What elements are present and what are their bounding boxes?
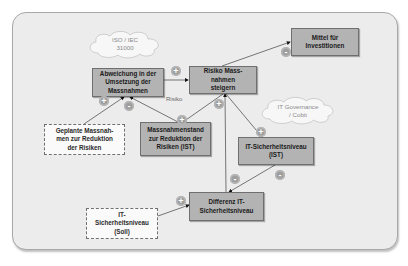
edge-label-risiko: Risiko: [166, 96, 182, 102]
edge-differenz-risiko: [225, 94, 226, 192]
cloud-governance-text: IT Governance / Cobit: [278, 103, 319, 119]
node-differenz-label: Differenz IT-Sicherheitsniveau: [196, 198, 257, 215]
minus-sign-icon: -: [124, 101, 134, 111]
cloud-governance-line2: / Cobit: [289, 111, 307, 118]
minus-sign-icon: -: [230, 174, 240, 184]
node-mittel-label: Mittel für Investitionen: [302, 34, 348, 51]
node-it-sicherheitsniveau-soll[interactable]: IT-Sicherheitsniveau (Soll): [86, 208, 158, 239]
edge-risiko-mittel: [222, 42, 290, 66]
node-geplante-massnahmen[interactable]: Geplante Massnah-men zur Reduktion der R…: [44, 124, 125, 155]
cloud-iso-iec: ISO / IEC 31000: [84, 29, 166, 59]
plus-sign-icon: +: [176, 196, 186, 206]
node-it-sicherheitsniveau-ist[interactable]: IT-Sicherheitsniveau (IST): [238, 137, 314, 165]
cloud-iso-text: ISO / IEC 31000: [112, 36, 138, 52]
plus-sign-icon: +: [256, 127, 266, 137]
minus-sign-icon: -: [275, 170, 285, 180]
minus-sign-icon: -: [281, 47, 291, 57]
node-itist-label: IT-Sicherheitsniveau (IST): [243, 143, 309, 160]
cloud-governance-line1: IT Governance: [278, 103, 319, 110]
plus-sign-icon: +: [177, 115, 187, 125]
node-massnahmenstand[interactable]: Massnahmenstand zur Reduktion der Risike…: [140, 122, 211, 156]
node-itsoll-label: IT-Sicherheitsniveau (Soll): [93, 211, 151, 237]
node-abweichung[interactable]: Abweichung in der Umsetzung der Massnahm…: [92, 68, 164, 97]
node-risiko-massnahmen-steigern[interactable]: Risiko Mass-nahmen steigern: [189, 66, 257, 94]
cloud-it-governance: IT Governance / Cobit: [256, 96, 340, 125]
node-abweichung-label: Abweichung in der Umsetzung der Massnahm…: [99, 70, 157, 96]
node-geplante-label: Geplante Massnah-men zur Reduktion der R…: [53, 127, 116, 153]
node-risiko-label: Risiko Mass-nahmen steigern: [198, 67, 248, 93]
node-massnahmenstand-label: Massnahmenstand zur Reduktion der Risike…: [145, 126, 206, 152]
plus-sign-icon: +: [214, 99, 224, 109]
plus-sign-icon: +: [171, 66, 181, 76]
plus-sign-icon: +: [99, 96, 109, 106]
cloud-iso-line2: 31000: [116, 44, 133, 51]
cloud-iso-line1: ISO / IEC: [112, 36, 138, 43]
node-mittel-investitionen[interactable]: Mittel für Investitionen: [291, 28, 359, 56]
node-differenz-it-sicherheitsniveau[interactable]: Differenz IT-Sicherheitsniveau: [189, 192, 264, 221]
edge-itsoll-differenz: [158, 205, 189, 216]
